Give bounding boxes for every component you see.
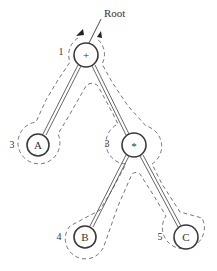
node-label: C	[182, 231, 189, 243]
node-label: *	[131, 140, 137, 152]
root-pointer: Root	[89, 7, 125, 43]
direction-arrows	[76, 29, 102, 38]
order-label: 4	[57, 231, 62, 242]
tree-edges	[43, 65, 181, 227]
order-label: 5	[158, 231, 163, 242]
arrow-down-left-icon	[76, 29, 84, 36]
node-label: A	[34, 139, 42, 151]
expression-tree-diagram: Root + 1 A 3 * 3 B 4 C 5	[0, 0, 217, 271]
node-label: +	[83, 49, 89, 61]
node-times: * 3	[105, 133, 147, 157]
node-plus: + 1	[59, 43, 99, 67]
root-pointer-line	[89, 19, 101, 43]
node-a: A 3	[10, 134, 50, 156]
node-c: C 5	[158, 225, 199, 249]
node-b: B 4	[57, 226, 97, 248]
order-label: 1	[59, 46, 64, 57]
node-label: B	[81, 231, 88, 243]
order-label: 3	[105, 138, 110, 149]
order-label: 3	[10, 139, 15, 150]
root-label: Root	[104, 7, 125, 19]
arrow-up-icon	[97, 31, 102, 38]
